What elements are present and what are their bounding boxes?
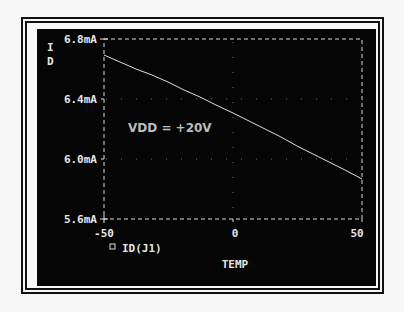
x-axis-title: TEMP bbox=[222, 258, 249, 271]
ytick-6.0: 6.0mA bbox=[64, 153, 97, 166]
xtick-0: 0 bbox=[232, 227, 239, 240]
legend-marker-square-icon bbox=[110, 244, 115, 249]
vdd-annotation: VDD = +20V bbox=[128, 121, 212, 135]
ytick-5.6: 5.6mA bbox=[64, 213, 97, 226]
xtick-50: 50 bbox=[350, 227, 363, 240]
y-axis-title-d: D bbox=[47, 55, 54, 68]
ytick-6.8: 6.8mA bbox=[64, 33, 97, 46]
chart: 6.8mA 6.4mA 6.0mA 5.6mA I D -50 0 50 ID(… bbox=[0, 0, 404, 312]
xtick-neg50: -50 bbox=[94, 227, 114, 240]
ytick-6.4: 6.4mA bbox=[64, 93, 97, 106]
legend-label: ID(J1) bbox=[122, 242, 162, 255]
y-axis-title-i: I bbox=[47, 41, 54, 54]
